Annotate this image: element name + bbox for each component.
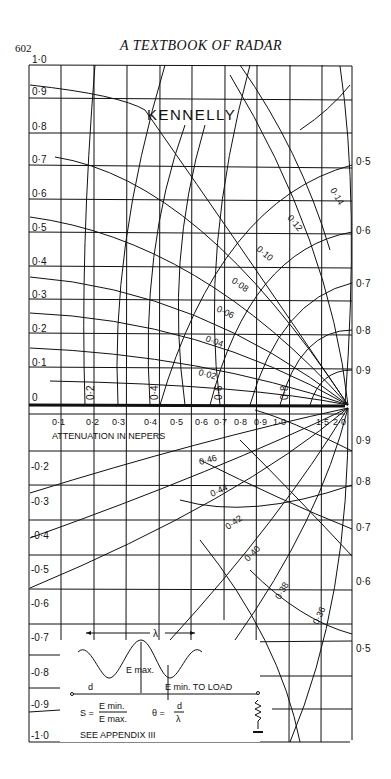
standing-wave-inset: λ E max. d E min. TO LOAD S = E min. E m…	[60, 628, 263, 742]
svg-text:-0·7: -0·7	[31, 632, 49, 643]
svg-text:0·6: 0·6	[356, 225, 371, 236]
svg-text:-0·6: -0·6	[31, 598, 49, 609]
svg-text:0·7: 0·7	[214, 417, 227, 427]
svg-text:1·0: 1·0	[273, 417, 286, 427]
svg-text:0·2: 0·2	[85, 385, 96, 400]
svg-text:0·1: 0·1	[52, 417, 65, 427]
svg-text:0·9: 0·9	[356, 365, 371, 376]
svg-text:0·08: 0·08	[230, 275, 250, 294]
svg-text:SEE APPENDIX III: SEE APPENDIX III	[80, 730, 156, 740]
svg-text:0·4: 0·4	[144, 417, 157, 427]
svg-text:0·10: 0·10	[255, 244, 275, 263]
left-axis-upper: 1·0 0·9 0·8 0·7 0·6 0·5 0·4 0·3 0·2 0·1 …	[32, 54, 47, 403]
svg-text:0·6: 0·6	[195, 417, 208, 427]
svg-text:0·36: 0·36	[311, 605, 328, 626]
svg-text:0·8: 0·8	[279, 385, 290, 400]
svg-text:-0·8: -0·8	[31, 667, 49, 678]
svg-text:λ: λ	[153, 628, 158, 639]
svg-text:0·2: 0·2	[32, 323, 47, 334]
svg-text:d: d	[177, 701, 182, 711]
svg-text:ATTENUATION IN NEPERS: ATTENUATION IN NEPERS	[52, 431, 165, 441]
svg-text:-0·9: -0·9	[31, 699, 49, 710]
kennelly-chart: 0·1 0·2 0·3 0·4 0·5 0·6 0·7 0·8 0·9 1·0 …	[0, 0, 391, 779]
svg-text:0·40: 0·40	[242, 544, 262, 564]
svg-text:0·4: 0·4	[149, 385, 160, 400]
svg-text:0·8: 0·8	[356, 325, 371, 336]
svg-text:0·5: 0·5	[356, 156, 371, 167]
svg-text:0·6: 0·6	[356, 576, 371, 587]
svg-text:0·3: 0·3	[32, 289, 47, 300]
svg-text:-0·5: -0·5	[31, 564, 49, 575]
svg-text:E max.: E max.	[99, 714, 127, 724]
svg-text:0·2: 0·2	[86, 417, 99, 427]
svg-text:0·8: 0·8	[234, 417, 247, 427]
svg-text:d: d	[88, 682, 93, 692]
svg-text:-0·4: -0·4	[31, 530, 49, 541]
svg-text:0·38: 0·38	[273, 580, 291, 601]
svg-text:0·5: 0·5	[356, 643, 371, 654]
svg-text:0·7: 0·7	[356, 522, 371, 533]
svg-text:0·04: 0·04	[204, 333, 224, 349]
svg-text:λ: λ	[176, 714, 181, 724]
svg-text:-1·0: -1·0	[31, 730, 49, 741]
svg-text:0·3: 0·3	[112, 417, 125, 427]
svg-text:0·14: 0·14	[328, 186, 346, 207]
svg-text:-0·3: -0·3	[31, 496, 49, 507]
svg-text:E min.: E min.	[99, 701, 125, 711]
svg-text:0·8: 0·8	[356, 476, 371, 487]
svg-text:θ =: θ =	[152, 708, 165, 718]
svg-text:0·9: 0·9	[32, 86, 47, 97]
svg-text:0·8: 0·8	[32, 121, 47, 132]
svg-text:0·7: 0·7	[32, 154, 47, 165]
right-axis-upper: 0·5 0·6 0·7 0·8 0·9	[356, 156, 371, 376]
svg-text:E min. TO LOAD: E min. TO LOAD	[165, 682, 233, 692]
svg-text:-0·2: -0·2	[31, 461, 49, 472]
svg-text:E max.: E max.	[126, 665, 154, 675]
svg-text:0·9: 0·9	[356, 435, 371, 446]
svg-text:0·5: 0·5	[170, 417, 183, 427]
svg-text:0·1: 0·1	[32, 357, 47, 368]
lower-curve-labels: 0·46 0·44 0·42 0·40 0·38 0·36	[198, 453, 327, 626]
right-axis-lower: 0·9 0·8 0·7 0·6 0·5	[356, 435, 371, 654]
svg-text:0·6: 0·6	[213, 385, 224, 400]
attenuation-scale: 0·1 0·2 0·3 0·4 0·5 0·6 0·7 0·8 0·9 1·0 …	[29, 414, 346, 441]
chart-title: KENNELLY	[147, 106, 236, 123]
svg-text:0: 0	[32, 392, 38, 403]
svg-text:2·0: 2·0	[333, 417, 346, 427]
svg-text:0·4: 0·4	[32, 256, 47, 267]
svg-text:1·5: 1·5	[316, 417, 329, 427]
svg-text:S =: S =	[80, 708, 94, 718]
left-axis-lower: -0·2 -0·3 -0·4 -0·5 -0·6 -0·7 -0·8 -0·9 …	[31, 461, 49, 741]
svg-text:0·12: 0·12	[285, 213, 304, 233]
svg-text:0·46: 0·46	[198, 453, 218, 467]
svg-text:0·06: 0·06	[215, 304, 236, 321]
svg-text:0·6: 0·6	[32, 188, 47, 199]
svg-text:0·7: 0·7	[356, 278, 371, 289]
svg-text:1·0: 1·0	[32, 54, 47, 65]
svg-text:0·5: 0·5	[32, 222, 47, 233]
svg-text:0·9: 0·9	[254, 417, 267, 427]
svg-text:0·42: 0·42	[223, 513, 243, 532]
